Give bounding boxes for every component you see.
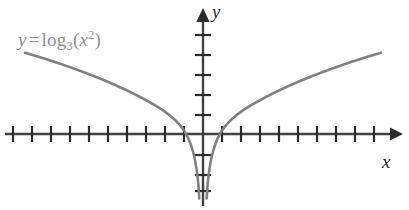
- equation-argument-var: x: [79, 29, 88, 50]
- y-axis-arrowhead: [196, 8, 209, 22]
- curve-left-branch: [25, 53, 199, 199]
- equation-operator: =: [27, 29, 42, 50]
- y-axis-label: y: [212, 2, 220, 21]
- equation-paren-close: ): [95, 29, 102, 50]
- equation-label: y=log3(x2): [18, 30, 101, 49]
- curve-right-branch: [207, 53, 381, 199]
- x-axis-arrowhead: [390, 128, 403, 141]
- x-axis-label: x: [382, 152, 390, 171]
- equation-lhs: y: [18, 29, 27, 50]
- equation-function-name: log: [42, 29, 67, 50]
